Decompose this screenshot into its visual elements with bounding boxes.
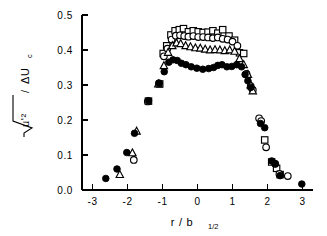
- data-point-circle-filled: [114, 166, 121, 173]
- y-axis-denominator-subscript: c: [25, 54, 34, 58]
- x-tick-label: 3: [299, 196, 305, 207]
- data-point-circle-filled: [124, 149, 131, 156]
- y-axis-radicand: u'²: [19, 113, 31, 127]
- data-point-circle-filled: [238, 64, 245, 71]
- y-axis-denominator: ΔU: [19, 67, 31, 84]
- x-axis-label: r / b 1/2: [171, 216, 219, 231]
- figure-container: 0.00.10.20.30.40.5 -3-2-10123 u'² / ΔU c…: [0, 0, 327, 236]
- data-point-circle-filled: [272, 160, 279, 167]
- data-point-circle-filled: [261, 124, 268, 131]
- data-point-square-open: [241, 50, 247, 56]
- scatter-plot: 0.00.10.20.30.40.5 -3-2-10123 u'² / ΔU c…: [0, 0, 327, 236]
- x-axis-ticks: -3-2-10123: [87, 184, 305, 207]
- y-axis-slash: /: [19, 89, 31, 93]
- data-point-circle-open: [131, 157, 138, 164]
- x-tick-label: 2: [264, 196, 270, 207]
- data-point-square-open: [220, 27, 226, 33]
- x-tick-label: -1: [157, 196, 167, 207]
- x-tick-label: 0: [194, 196, 200, 207]
- data-point-circle-filled: [299, 181, 306, 188]
- data-point-circle-filled: [156, 80, 163, 87]
- x-axis-label-main: r / b: [171, 216, 193, 228]
- x-axis-label-subscript: 1/2: [208, 222, 218, 231]
- y-tick-label: 0.3: [57, 80, 73, 91]
- series-open-circle: [131, 32, 292, 179]
- data-point-square-open: [262, 137, 268, 143]
- data-series-layer: [103, 25, 306, 187]
- data-point-circle-filled: [161, 68, 168, 75]
- y-tick-label: 0.0: [57, 185, 73, 196]
- y-tick-label: 0.2: [57, 115, 73, 126]
- data-point-circle-filled: [103, 175, 110, 182]
- x-tick-label: -2: [122, 196, 132, 207]
- y-axis-label: u'² / ΔU c: [13, 54, 34, 137]
- data-point-circle-open: [285, 173, 292, 180]
- x-tick-label: 1: [229, 196, 235, 207]
- data-point-circle-open: [263, 144, 270, 151]
- data-point-circle-filled: [242, 71, 249, 78]
- data-point-circle-filled: [277, 172, 284, 179]
- y-axis-ticks: 0.00.10.20.30.40.5: [57, 10, 88, 196]
- data-point-circle-filled: [145, 97, 152, 104]
- y-tick-label: 0.4: [57, 45, 73, 56]
- x-tick-label: -3: [87, 196, 97, 207]
- series-open-triangle: [116, 39, 256, 177]
- data-point-circle-filled: [245, 78, 252, 85]
- data-point-circle-filled: [131, 130, 138, 137]
- y-tick-label: 0.5: [57, 10, 73, 21]
- data-point-circle-filled: [194, 65, 201, 72]
- y-tick-label: 0.1: [57, 150, 73, 161]
- data-point-circle-filled: [247, 84, 254, 91]
